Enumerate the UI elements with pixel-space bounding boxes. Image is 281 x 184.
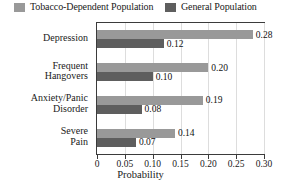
category-label-line: Pain xyxy=(70,136,88,147)
bar-tobacco-dependent-1 xyxy=(97,63,208,72)
bar-value-label: 0.28 xyxy=(256,31,273,40)
category-label-2: Anxiety/PanicDisorder xyxy=(31,93,88,114)
x-axis-tick-label: 0 xyxy=(95,159,100,169)
category-label-line: Disorder xyxy=(53,103,88,114)
bar-general-2 xyxy=(97,105,142,114)
bar-value-label: 0.20 xyxy=(211,64,228,73)
x-axis-tick-label: 0.25 xyxy=(228,159,245,169)
bar-general-3 xyxy=(97,138,136,147)
x-axis-tick-label: 0.30 xyxy=(256,159,273,169)
category-label-line: Severe xyxy=(61,125,88,136)
gridline xyxy=(264,23,265,154)
x-axis: 00.050.100.150.200.250.30 xyxy=(96,155,265,167)
plot-area: 0.280.120.200.100.190.080.140.07 xyxy=(96,22,265,155)
x-axis-tick-label: 0.20 xyxy=(200,159,217,169)
x-axis-tick-label: 0.15 xyxy=(172,159,189,169)
legend-swatch-tobacco-dependent-population xyxy=(14,3,25,12)
bar-value-label: 0.07 xyxy=(139,138,156,147)
category-label-3: SeverePain xyxy=(61,126,88,147)
x-axis-tick-label: 0.05 xyxy=(117,159,134,169)
bar-value-label: 0.08 xyxy=(145,105,162,114)
bar-group: 0.140.07 xyxy=(97,129,264,147)
bar-value-label: 0.14 xyxy=(178,129,195,138)
bar-tobacco-dependent-3 xyxy=(97,129,175,138)
bar-chart-figure: Tobacco-Dependent Population General Pop… xyxy=(0,0,281,184)
bar-group: 0.280.12 xyxy=(97,30,264,48)
bar-value-label: 0.12 xyxy=(167,40,184,49)
bar-general-1 xyxy=(97,72,153,81)
bar-series-container: 0.280.120.200.100.190.080.140.07 xyxy=(97,23,264,154)
bar-value-label: 0.19 xyxy=(206,96,223,105)
bar-value-label: 0.10 xyxy=(156,73,173,82)
category-label-1: FrequentHangovers xyxy=(45,61,88,82)
bar-group: 0.190.08 xyxy=(97,96,264,114)
category-label-line: Depression xyxy=(43,32,88,43)
legend-label-general-population: General Population xyxy=(181,2,257,12)
legend-swatch-general-population xyxy=(165,3,176,12)
legend-label-tobacco-dependent-population: Tobacco-Dependent Population xyxy=(30,2,153,12)
chart-legend: Tobacco-Dependent Population General Pop… xyxy=(0,0,281,18)
category-label-line: Anxiety/Panic xyxy=(31,92,88,103)
category-label-line: Hangovers xyxy=(45,70,88,81)
bar-group: 0.200.10 xyxy=(97,63,264,81)
category-label-0: Depression xyxy=(43,33,88,44)
bar-general-0 xyxy=(97,39,164,48)
legend-item-general-population: General Population xyxy=(165,2,257,12)
category-label-line: Frequent xyxy=(52,60,88,71)
x-axis-title: Probability xyxy=(0,169,281,180)
x-axis-tick-label: 0.10 xyxy=(144,159,161,169)
category-axis-labels: DepressionFrequentHangoversAnxiety/Panic… xyxy=(0,22,92,155)
legend-item-tobacco-dependent-population: Tobacco-Dependent Population xyxy=(14,2,153,12)
